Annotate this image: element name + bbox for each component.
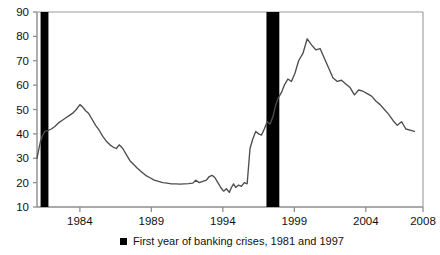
x-axis-tick-label: 1989 — [139, 215, 165, 227]
plot-area-background — [37, 12, 423, 207]
y-axis-tick-label: 90 — [16, 6, 29, 18]
line-chart: 102030405060708090 198419891994199920042… — [0, 0, 440, 255]
y-axis-tick-label: 10 — [16, 201, 29, 213]
chart-container: 102030405060708090 198419891994199920042… — [0, 0, 440, 255]
y-axis-tick-label: 70 — [16, 55, 29, 67]
y-axis-tick-label: 80 — [16, 30, 29, 42]
y-axis-tick-label: 60 — [16, 79, 29, 91]
y-axis: 102030405060708090 — [16, 6, 37, 213]
x-axis-tick-label: 2008 — [410, 215, 436, 227]
legend-label: First year of banking crises, 1981 and 1… — [133, 235, 344, 247]
y-axis-tick-label: 30 — [16, 152, 29, 164]
legend-marker-square — [120, 238, 127, 245]
x-axis-tick-label: 1994 — [210, 215, 236, 227]
y-axis-tick-label: 50 — [16, 104, 29, 116]
chart-legend: First year of banking crises, 1981 and 1… — [120, 235, 344, 247]
y-axis-tick-label: 20 — [16, 177, 29, 189]
y-axis-tick-label: 40 — [16, 128, 29, 140]
x-axis-tick-label: 1984 — [67, 215, 93, 227]
crisis-band — [266, 12, 279, 207]
x-axis-tick-label: 1999 — [282, 215, 308, 227]
x-axis-tick-label: 2004 — [353, 215, 379, 227]
x-axis: 198419891994199920042008 — [67, 207, 436, 227]
crisis-band — [41, 12, 49, 207]
